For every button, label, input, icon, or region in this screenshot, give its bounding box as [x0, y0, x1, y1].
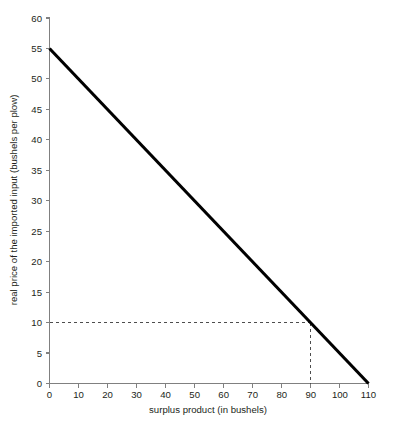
- figure-caption: [0, 424, 394, 433]
- x-tick-label: 20: [102, 389, 113, 400]
- price-line-series: [50, 49, 369, 384]
- figure-container: 0 5 10 15 20 25 30 35 40 45 50 55 60: [0, 0, 394, 433]
- x-tick-label: 0: [47, 389, 52, 400]
- y-tick-labels: 0 5 10 15 20 25 30 35 40 45 50 55 60: [31, 13, 42, 390]
- y-tick-label: 45: [31, 104, 42, 115]
- y-tick-label: 20: [31, 256, 42, 267]
- y-tick-label: 50: [31, 73, 42, 84]
- y-tick-label: 30: [31, 195, 42, 206]
- y-tick-label: 0: [37, 378, 42, 389]
- equilibrium-guide-lines: [50, 323, 311, 384]
- y-axis-title: real price of the imported input (bushel…: [8, 95, 19, 306]
- x-tick-label: 40: [160, 389, 171, 400]
- y-tick-label: 40: [31, 134, 42, 145]
- x-tick-label: 80: [276, 389, 287, 400]
- x-tick-label: 60: [218, 389, 229, 400]
- y-tick-label: 15: [31, 287, 42, 298]
- y-tick-label: 35: [31, 165, 42, 176]
- x-tick-labels: 0 10 20 30 40 50 60 70 80 90 100 110: [47, 389, 376, 400]
- y-tick-label: 10: [31, 317, 42, 328]
- line-chart: 0 5 10 15 20 25 30 35 40 45 50 55 60: [0, 0, 394, 433]
- x-tick-label: 70: [247, 389, 258, 400]
- y-tick-label: 25: [31, 226, 42, 237]
- x-tick-label: 110: [361, 389, 376, 400]
- x-tick-label: 30: [131, 389, 142, 400]
- x-tick-label: 100: [332, 389, 348, 400]
- x-tick-label: 10: [73, 389, 84, 400]
- y-tick-label: 55: [31, 43, 42, 54]
- y-tick-label: 60: [31, 13, 42, 24]
- x-tick-label: 90: [305, 389, 316, 400]
- y-tick-label: 5: [37, 348, 42, 359]
- x-axis-title: surplus product (in bushels): [149, 404, 267, 415]
- x-tick-label: 50: [189, 389, 200, 400]
